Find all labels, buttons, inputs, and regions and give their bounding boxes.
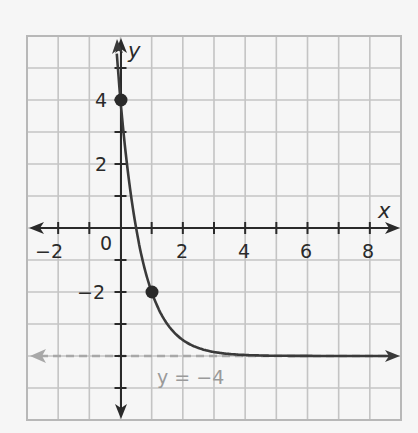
x-tick-label-6: 6 — [300, 240, 312, 262]
x-tick-label-8: 8 — [362, 240, 374, 262]
x-tick-label-neg2: −2 — [35, 240, 63, 262]
x-axis-label: x — [377, 199, 391, 223]
asymptote-label: y = −4 — [157, 366, 224, 388]
x-tick-label-4: 4 — [238, 240, 250, 262]
exponential-graph: y x −2 0 2 4 6 8 4 2 −2 y = −4 — [0, 0, 418, 433]
point-0-4 — [115, 94, 128, 107]
y-axis-label: y — [127, 39, 141, 63]
y-tick-label-2: 2 — [95, 153, 107, 175]
x-tick-label-0: 0 — [100, 232, 112, 254]
x-tick-label-2: 2 — [176, 240, 188, 262]
y-tick-label-neg2: −2 — [77, 281, 105, 303]
y-tick-label-4: 4 — [95, 89, 107, 111]
point-1-neg2 — [146, 286, 159, 299]
